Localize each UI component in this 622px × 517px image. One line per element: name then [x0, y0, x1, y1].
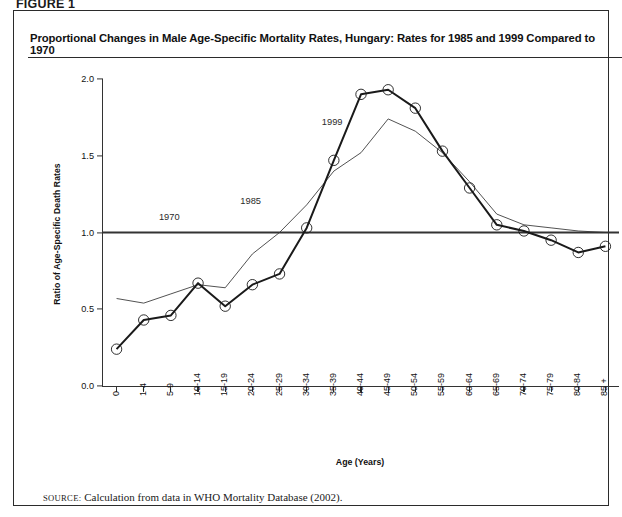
data-point-marker: [139, 315, 149, 325]
x-axis-tick-label: 70-74: [519, 373, 528, 396]
data-point-marker: [274, 269, 284, 279]
data-point-marker: [410, 103, 420, 113]
x-axis-tick-label: 15-19: [220, 373, 229, 396]
x-axis-tick-label: 75-79: [546, 373, 555, 396]
data-point-marker: [247, 279, 257, 289]
data-point-marker: [356, 89, 366, 99]
x-axis-title: Age (Years): [102, 457, 618, 467]
y-axis-tick-label: 1.0: [81, 228, 94, 238]
y-axis-tick-label: 0.5: [81, 304, 94, 314]
y-axis-tick-label: 2.0: [81, 74, 94, 84]
x-axis-tick-label: 50-54: [410, 373, 419, 396]
x-axis-tick-label: 45-49: [383, 373, 392, 396]
source-label: Source:: [43, 493, 81, 503]
y-axis-tick: [97, 385, 103, 386]
x-axis-tick-label: 30-34: [302, 373, 311, 396]
data-point-marker: [573, 247, 583, 257]
y-axis-tick: [97, 232, 103, 233]
series-1999: [111, 85, 610, 355]
chart-lines: [103, 79, 619, 386]
data-point-marker: [193, 278, 203, 288]
x-axis-tick-label: 20-24: [247, 373, 256, 396]
y-axis-tick: [97, 78, 103, 79]
data-point-marker: [329, 155, 339, 165]
data-point-marker: [383, 85, 393, 95]
x-axis-tick-label: 55-59: [437, 373, 446, 396]
x-axis-tick-label: 80-84: [573, 373, 582, 396]
data-point-marker: [600, 241, 610, 251]
y-axis-tick-label: 0.0: [81, 381, 94, 391]
data-point-marker: [464, 183, 474, 193]
title-divider: [28, 57, 622, 58]
x-axis-tick-label: 60-64: [465, 373, 474, 396]
y-axis-tick: [97, 309, 103, 310]
chart-plot-area: Ratio of Age-Specific Death Rates 0.00.5…: [102, 79, 619, 387]
series-label-1985: 1985: [240, 196, 261, 206]
series-label-1970: 1970: [159, 212, 180, 222]
data-point-marker: [546, 235, 556, 245]
data-point-marker: [437, 146, 447, 156]
y-axis-tick-label: 1.5: [81, 151, 94, 161]
data-point-marker: [166, 310, 176, 320]
x-axis-tick-label: 40-44: [356, 373, 365, 396]
x-axis-tick-label: 10-14: [193, 373, 202, 396]
figure-title: Proportional Changes in Male Age-Specifi…: [30, 32, 600, 56]
y-axis-title: Ratio of Age-Specific Death Rates: [52, 84, 62, 384]
figure-frame: Proportional Changes in Male Age-Specifi…: [13, 10, 609, 506]
data-point-marker: [220, 301, 230, 311]
data-point-marker: [111, 344, 121, 354]
series-label-1999: 1999: [322, 117, 343, 127]
source-note: Source: Calculation from data in WHO Mor…: [43, 491, 342, 503]
x-axis-tick-label: 5-9: [166, 383, 175, 396]
source-text: Calculation from data in WHO Mortality D…: [84, 491, 342, 503]
y-axis-tick: [97, 155, 103, 156]
series-1985: [117, 119, 606, 303]
x-axis-tick-label: 65-69: [492, 373, 501, 396]
x-axis-tick-label: 35-39: [329, 373, 338, 396]
x-axis-tick-label: 1-4: [139, 383, 148, 396]
data-point-marker: [301, 223, 311, 233]
data-point-marker: [492, 220, 502, 230]
x-axis-tick-label: 0: [112, 391, 121, 396]
x-axis-tick-label: 85 +: [600, 378, 609, 396]
data-point-marker: [519, 226, 529, 236]
x-axis-tick-label: 25-29: [275, 373, 284, 396]
